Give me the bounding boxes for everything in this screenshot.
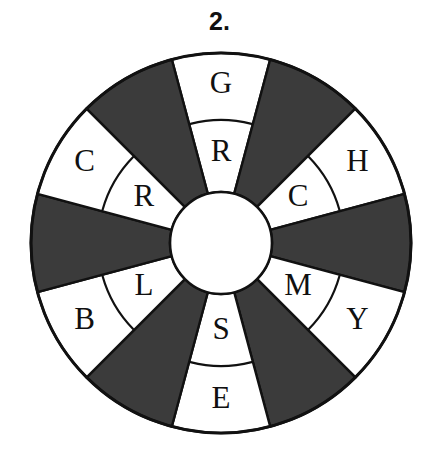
wheel-letter-inner: R (211, 133, 232, 168)
wheel-letter-outer: Y (346, 301, 368, 336)
wheel-hub-circle (170, 192, 272, 294)
wheel-letter-inner: L (134, 267, 153, 302)
wheel-letter-inner: M (284, 267, 312, 302)
wheel-letter-outer: C (74, 143, 95, 178)
figure-page: 2. RGCHMYSELBRC (0, 0, 439, 451)
wheel-letter-outer: B (74, 301, 95, 336)
wheel-letter-inner: C (288, 178, 309, 213)
wheel-letter-outer: G (210, 65, 232, 100)
letter-wheel-diagram: RGCHMYSELBRC (0, 0, 439, 451)
wheel-letter-inner: R (134, 178, 155, 213)
wheel-letter-outer: H (346, 143, 368, 178)
wheel-letter-outer: E (212, 380, 231, 415)
wheel-letter-inner: S (212, 311, 229, 346)
